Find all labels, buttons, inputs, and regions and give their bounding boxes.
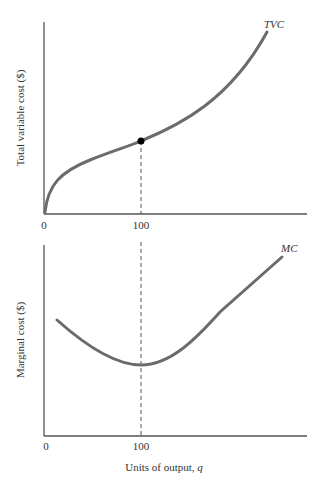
- tvc-inflection-point: [138, 138, 145, 145]
- mc-tick-100: 100: [133, 440, 150, 452]
- tvc-y-label: Total variable cost ($): [14, 69, 27, 166]
- mc-curve-label: MC: [280, 242, 298, 254]
- cost-curves-figure: TVC 0 100 Total variable cost ($) MC 0 1…: [0, 0, 325, 479]
- tvc-curve: [45, 32, 267, 212]
- tvc-tick-100: 100: [133, 219, 150, 231]
- mc-y-label: Marginal cost ($): [14, 302, 27, 379]
- mc-chart: MC 0 100 Marginal cost ($) Units of outp…: [14, 242, 307, 473]
- tvc-curve-label: TVC: [264, 18, 285, 30]
- x-axis-label: Units of output, q: [125, 461, 203, 473]
- mc-curve: [57, 257, 282, 365]
- tvc-tick-0: 0: [41, 219, 47, 231]
- mc-tick-0: 0: [43, 440, 49, 452]
- tvc-chart: TVC 0 100 Total variable cost ($): [14, 18, 307, 231]
